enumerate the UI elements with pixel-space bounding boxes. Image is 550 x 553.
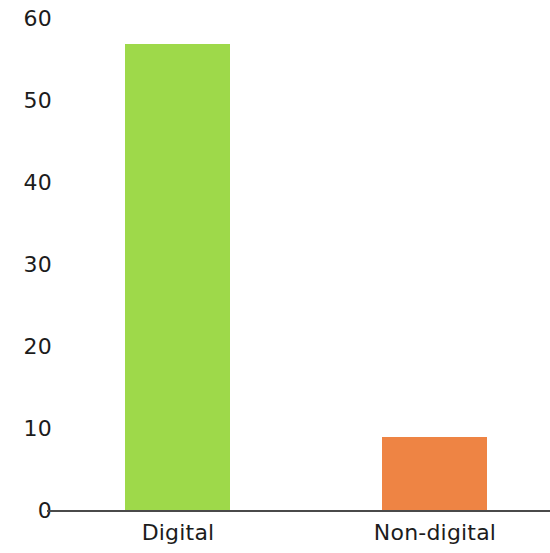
y-axis-tick-label: 30 [0,254,52,276]
y-axis-tick-label: 50 [0,90,52,112]
bar-chart: 60 50 40 30 20 10 0 Digital Non-digital [0,0,550,553]
y-axis-tick-label: 20 [0,336,52,358]
plot-area: 60 50 40 30 20 10 0 Digital Non-digital [0,0,550,553]
x-axis-line [47,510,550,512]
x-axis-label-non-digital: Non-digital [355,522,515,544]
y-axis-tick-label: 60 [0,8,52,30]
x-axis-label-digital: Digital [107,522,249,544]
bar-non-digital [382,437,487,511]
y-axis-tick-label: 0 [0,500,52,522]
y-axis-tick-label: 40 [0,172,52,194]
y-axis-tick-label: 10 [0,418,52,440]
bar-digital [125,44,230,511]
